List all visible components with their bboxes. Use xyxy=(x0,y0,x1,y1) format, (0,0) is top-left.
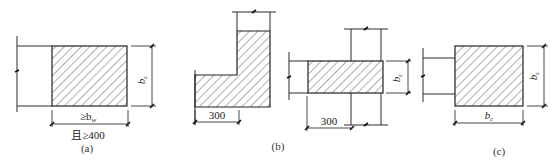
caption-b: (b) xyxy=(272,140,285,153)
caption-c: (c) xyxy=(493,145,506,158)
height-label: bc xyxy=(135,75,149,85)
dim-300-label: 300 xyxy=(321,115,338,127)
break-mark xyxy=(15,70,19,72)
hatched-t-element xyxy=(308,61,383,93)
break-mark xyxy=(421,75,425,77)
width-label: bc xyxy=(485,109,495,123)
hatched-l-shaped-element xyxy=(195,31,270,107)
panel-b-t-shape: bc 300 (b) xyxy=(272,27,411,153)
break-mark xyxy=(287,76,291,78)
hatched-column-element xyxy=(455,46,523,106)
hatched-boundary-element xyxy=(52,46,127,106)
width-label-min-bw: ≥bw xyxy=(80,110,97,124)
height-label: bc xyxy=(527,71,541,81)
diagram-canvas: bc ≥bw 且≥400 (a) 300 xyxy=(0,0,560,167)
dim-300-label: 300 xyxy=(209,109,226,121)
caption-a: (a) xyxy=(81,142,94,155)
width-label-min-400: 且≥400 xyxy=(71,129,105,141)
panel-c: bc bc (c) xyxy=(421,44,548,158)
panel-b-l-shape: 300 xyxy=(193,10,276,125)
panel-a: bc ≥bw 且≥400 (a) xyxy=(15,36,156,155)
height-label: bc xyxy=(390,73,404,83)
